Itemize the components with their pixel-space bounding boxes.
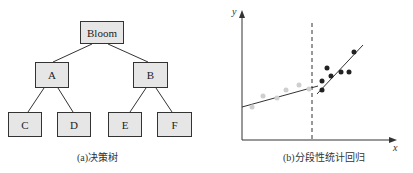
tree-node-c: C — [8, 112, 42, 137]
y-axis-label: y — [232, 6, 236, 17]
tree-caption: (a)决策树 — [77, 149, 118, 164]
regression-caption: (b)分段性统计回归 — [283, 149, 365, 164]
tree-node-d: D — [57, 112, 91, 137]
tree-node-e: E — [108, 112, 142, 137]
regression-axes — [239, 10, 397, 143]
x-axis-label: x — [393, 142, 397, 153]
tree-node-b: B — [133, 62, 168, 88]
tree-node-root: Bloom — [80, 21, 124, 44]
tree-node-a: A — [35, 62, 69, 88]
tree-node-f: F — [157, 112, 192, 137]
